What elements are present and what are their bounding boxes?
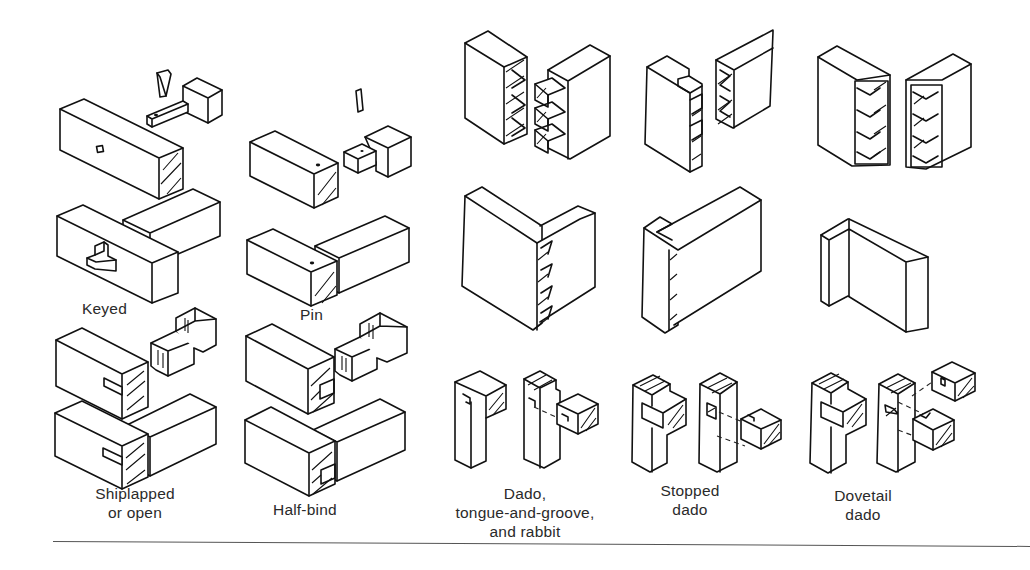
shiplapped-label-line2: or open: [80, 503, 190, 522]
dovetail-dado-label-line2: dado: [818, 505, 908, 524]
through-dovetail-assembled: [462, 187, 595, 330]
keyed-label: Keyed: [82, 299, 127, 318]
pin-joint-exploded: [250, 89, 411, 208]
shiplapped-label-line1: Shiplapped: [80, 484, 190, 503]
dovetail-dado-joint: [810, 362, 975, 473]
keyed-joint-assembled: [57, 189, 220, 303]
stopped-dado-label-line1: Stopped: [650, 481, 730, 500]
pin-label: Pin: [300, 305, 323, 324]
dado-label-line3: and rabbit: [440, 522, 610, 541]
dado-tongue-groove-rabbit-joint: [455, 371, 598, 468]
half-blind-dovetail-exploded: [645, 30, 773, 172]
stopped-dado-label-line2: dado: [650, 500, 730, 519]
stopped-dado-label: Stopped dado: [650, 481, 730, 519]
half-bind-label: Half-bind: [273, 500, 337, 519]
dovetail-dado-label-line1: Dovetail: [818, 486, 908, 505]
half-bind-joint-assembled: [245, 399, 405, 496]
dado-tongue-groove-rabbit-label: Dado, tongue-and-groove, and rabbit: [440, 484, 610, 541]
dado-label-line2: tongue-and-groove,: [440, 503, 610, 522]
half-blind-dovetail-assembled: [642, 187, 761, 333]
dado-label-line1: Dado,: [440, 484, 610, 503]
mitered-dovetail-exploded: [818, 46, 971, 169]
pin-joint-assembled: [247, 216, 409, 306]
dovetail-dado-label: Dovetail dado: [818, 486, 908, 524]
keyed-joint-exploded: [60, 70, 222, 199]
stopped-dado-joint: [632, 373, 781, 472]
through-dovetail-exploded: [465, 31, 610, 159]
mitered-dovetail-assembled: [821, 219, 928, 332]
half-bind-joint-exploded: [246, 313, 407, 414]
shiplapped-label: Shiplapped or open: [80, 484, 190, 522]
